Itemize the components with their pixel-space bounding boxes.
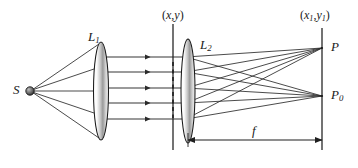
ray-bundle-lens2-to-P0 <box>186 57 322 119</box>
label-point-P: P <box>331 40 339 53</box>
ray-s-l1-2 <box>32 68 97 90</box>
ray-bundle-source-to-lens1 <box>32 44 99 138</box>
ray-l2-P-5 <box>186 48 322 119</box>
ray-s-l1-5 <box>32 92 99 138</box>
label-lens-L2: L2 <box>200 38 212 53</box>
label-point-P0: P0 <box>331 88 343 103</box>
lens-L1 <box>94 42 109 140</box>
optics-ray-diagram: S L1 L2 (x,y) (x1,y1) P P0 f <box>0 0 358 168</box>
ray-bundle-lens2-to-P <box>186 48 322 119</box>
ray-bundle-parallel <box>104 57 188 119</box>
label-plane-xy: (x,y) <box>162 9 184 21</box>
image-point-P0 <box>321 95 323 97</box>
label-source-S: S <box>13 83 20 96</box>
label-plane-x1y1: (x1,y1) <box>300 9 330 23</box>
lens-L2 <box>181 39 195 143</box>
ray-l2-P0-1 <box>186 57 322 96</box>
ray-s-l1-4 <box>32 92 97 114</box>
source-point-S <box>26 87 34 95</box>
ray-s-l1-1 <box>32 44 99 90</box>
label-focal-length: f <box>252 124 256 137</box>
label-lens-L1: L1 <box>88 30 100 45</box>
diagram-canvas <box>0 0 358 168</box>
image-point-P <box>321 47 323 49</box>
